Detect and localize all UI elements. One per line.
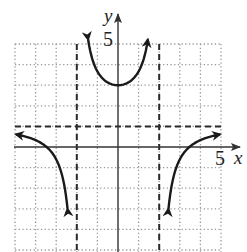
right-branch-curve <box>168 134 220 208</box>
x-axis-label: x <box>233 147 243 168</box>
x-tick-label: 5 <box>215 147 225 169</box>
y-tick-label: 5 <box>103 28 113 50</box>
left-branch-curve <box>16 134 68 208</box>
rational-function-graph: y 5 5 x <box>0 0 247 252</box>
y-axis-label: y <box>102 5 113 26</box>
